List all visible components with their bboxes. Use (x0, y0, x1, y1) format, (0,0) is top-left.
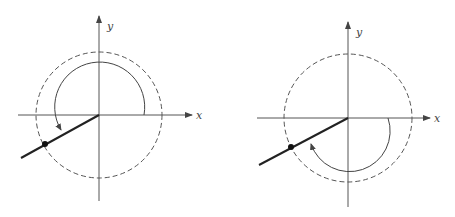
x-axis-label: x (196, 109, 203, 122)
figure-right: x y (257, 22, 441, 207)
terminal-side (259, 118, 348, 165)
rotation-arc-counterclockwise (55, 62, 145, 130)
rotation-arc-clockwise (311, 118, 390, 172)
y-axis-label: y (355, 26, 363, 39)
terminal-point (288, 144, 294, 150)
y-axis-label: y (106, 20, 114, 33)
terminal-side (21, 115, 99, 158)
terminal-point (42, 141, 48, 147)
angle-diagrams: x y x y (0, 0, 455, 217)
figure-left: x y (18, 16, 203, 201)
x-axis-label: x (434, 112, 441, 125)
